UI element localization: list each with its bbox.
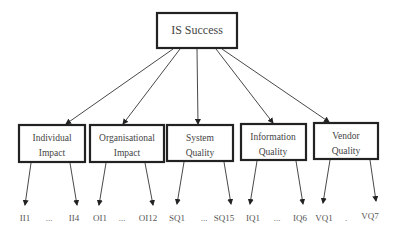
- indicator-ellipsis: ...: [201, 213, 208, 223]
- arrow-to-last-indicator: [70, 163, 77, 205]
- arrow-to-first-indicator: [250, 161, 257, 204]
- category-label-line1: Vendor: [332, 131, 360, 141]
- indicator-first: VQ1: [315, 213, 333, 223]
- category-label-line2: Impact: [39, 148, 66, 158]
- arrow-to-first-indicator: [177, 162, 184, 204]
- indicator-ellipsis: ...: [274, 213, 281, 223]
- root-arrows: [66, 49, 329, 124]
- indicator-last: II4: [69, 213, 80, 223]
- category-label-line1: Organisational: [99, 133, 155, 143]
- arrow-to-last-indicator: [145, 163, 153, 205]
- indicator-first: OI1: [93, 213, 107, 223]
- category-label-line2: Quality: [259, 147, 288, 157]
- indicator-last: SQ15: [214, 213, 235, 223]
- category-label-line2: Quality: [332, 146, 361, 156]
- arrow-to-last-indicator: [296, 161, 303, 204]
- indicator-last: IQ6: [293, 213, 307, 223]
- arrow-root-to-vendor-quality: [222, 49, 329, 122]
- category-system-quality: System Quality SQ1 ... SQ15: [167, 125, 235, 223]
- arrow-to-first-indicator: [25, 163, 31, 205]
- category-organisational-impact: Organisational Impact OI1 ... OI12: [90, 125, 164, 223]
- root-node: IS Success: [157, 13, 237, 48]
- category-vendor-quality: Vendor Quality VQ1 . VQ7: [314, 123, 379, 223]
- root-label: IS Success: [171, 23, 223, 37]
- arrow-to-first-indicator: [99, 163, 106, 205]
- category-label-line1: System: [186, 133, 215, 143]
- indicator-first: II1: [20, 213, 31, 223]
- is-success-hierarchy-diagram: IS Success Individual Impact II1 ... II4…: [0, 0, 395, 235]
- category-label-line1: Individual: [32, 133, 71, 143]
- arrow-root-to-organisational-impact: [123, 49, 180, 124]
- category-label-line2: Impact: [114, 148, 141, 158]
- indicator-ellipsis: ...: [119, 213, 126, 223]
- category-label-line1: Information: [250, 132, 296, 142]
- indicator-last: OI12: [139, 213, 158, 223]
- arrow-to-first-indicator: [323, 160, 330, 203]
- category-individual-impact: Individual Impact II1 ... II4: [19, 125, 85, 223]
- indicator-first: IQ1: [246, 213, 260, 223]
- indicator-ellipsis: .: [345, 213, 347, 223]
- category-information-quality: Information Quality IQ1 ... IQ6: [241, 124, 307, 223]
- indicator-first: SQ1: [169, 213, 185, 223]
- category-label-line2: Quality: [186, 148, 215, 158]
- arrow-to-last-indicator: [224, 162, 231, 204]
- arrow-to-last-indicator: [370, 160, 376, 201]
- indicator-last: VQ7: [361, 211, 379, 221]
- arrow-root-to-information-quality: [216, 49, 273, 123]
- indicator-ellipsis: ...: [46, 213, 53, 223]
- arrow-root-to-individual-impact: [66, 49, 173, 124]
- arrow-root-to-system-quality: [197, 49, 198, 124]
